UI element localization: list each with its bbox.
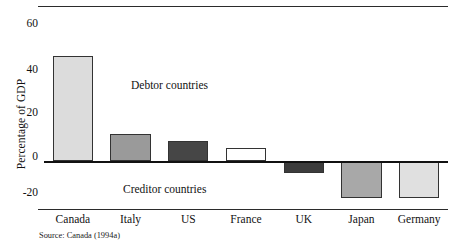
y-tick-label-20: 20: [4, 107, 38, 119]
bar-us: [168, 141, 208, 161]
y-tick-label-40: 40: [4, 64, 38, 76]
y-axis-title: Percentage of GDP: [15, 64, 27, 184]
bar-france: [226, 148, 266, 161]
bar-japan: [341, 161, 381, 198]
annotation-debtor-countries: Debtor countries: [131, 79, 208, 91]
y-tick-label-0: 0: [4, 151, 38, 163]
y-tick-label-minus20: -20: [0, 187, 38, 199]
x-tick-label-france: France: [217, 213, 275, 225]
y-tick-label-60: 60: [4, 18, 38, 30]
x-tick-label-us: US: [159, 213, 217, 225]
bar-canada: [53, 56, 93, 161]
source-note: Source: Canada (1994a): [39, 231, 120, 240]
plot-area: [44, 14, 448, 210]
zero-baseline: [44, 161, 448, 163]
bar-italy: [110, 134, 150, 161]
bar-germany: [399, 161, 439, 198]
x-tick-label-uk: UK: [275, 213, 333, 225]
bar-chart-figure: Percentage of GDP 60 40 20 0 -20 Debtor …: [0, 0, 451, 249]
figure-bottom-rule: [38, 209, 448, 210]
x-tick-label-japan: Japan: [333, 213, 391, 225]
x-tick-label-italy: Italy: [102, 213, 160, 225]
x-tick-label-canada: Canada: [44, 213, 102, 225]
annotation-creditor-countries: Creditor countries: [123, 183, 206, 195]
x-tick-label-germany: Germany: [390, 213, 448, 225]
